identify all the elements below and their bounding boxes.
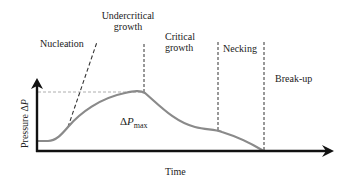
delta-p-max-sub: max — [134, 121, 148, 130]
x-axis-label: Time — [165, 166, 186, 177]
stage-label-undercritical-line1: Undercritical — [88, 10, 168, 21]
pressure-curve — [38, 91, 262, 150]
delta-p-max-label: ΔPmax — [120, 115, 148, 130]
stage-label-critical-line2: growth — [165, 42, 195, 53]
y-axis-label-prefix: Pressure Δ — [19, 105, 30, 148]
stage-label-nucleation: Nucleation — [40, 38, 84, 49]
y-axis-label: Pressure ΔP — [19, 99, 30, 148]
stage-label-break-up: Break-up — [275, 73, 312, 84]
stage-label-critical-line1: Critical — [165, 31, 195, 42]
stage-label-critical: Critical growth — [165, 31, 195, 53]
stage-label-undercritical: Undercritical growth — [88, 10, 168, 32]
diagram-canvas — [0, 0, 350, 180]
stage-label-necking: Necking — [223, 43, 257, 54]
delta-p-max-var: P — [127, 115, 134, 127]
stage-label-undercritical-line2: growth — [88, 21, 168, 32]
y-axis-label-var: P — [19, 99, 30, 105]
